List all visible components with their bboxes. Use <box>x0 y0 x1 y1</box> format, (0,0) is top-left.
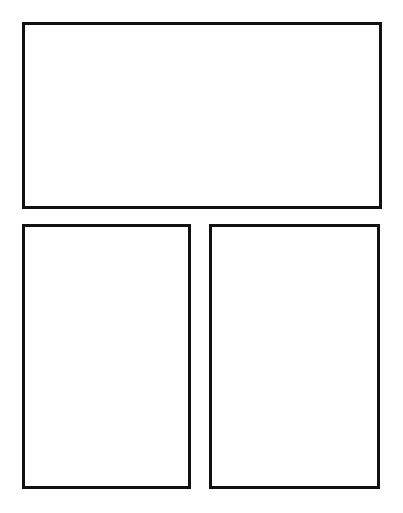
bottom-right-panel <box>209 224 380 489</box>
top-wide-panel <box>22 22 382 209</box>
panel-label <box>212 227 213 228</box>
comic-page <box>0 0 403 513</box>
panel-label <box>25 25 26 26</box>
bottom-left-panel <box>22 224 191 489</box>
panel-label <box>25 227 26 228</box>
